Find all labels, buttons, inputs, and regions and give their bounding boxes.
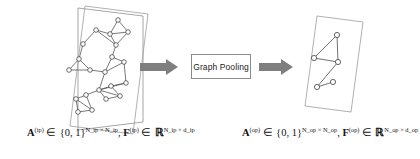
graph-node bbox=[330, 79, 335, 84]
output-sheet-group bbox=[305, 16, 363, 112]
graph-node bbox=[126, 30, 131, 35]
graph-node bbox=[110, 55, 115, 60]
input-adjacency-membership: ∈ bbox=[46, 127, 57, 138]
graph-node bbox=[67, 68, 72, 73]
output-adjacency-superscript: (op) bbox=[250, 126, 261, 133]
output-feature-superscript: (op) bbox=[349, 126, 360, 133]
output-graph-nodes bbox=[311, 32, 340, 89]
graph-node bbox=[124, 81, 129, 86]
graph-node bbox=[84, 93, 89, 98]
graph-node bbox=[114, 43, 119, 48]
graph-node bbox=[314, 84, 319, 89]
graph-node bbox=[90, 108, 95, 113]
graph-node bbox=[76, 110, 81, 115]
input-feature-set: ℝ bbox=[155, 127, 164, 138]
graph-node bbox=[122, 60, 127, 65]
output-feature-dims: N_op × d_op bbox=[384, 126, 418, 133]
input-adjacency-superscript: (ip) bbox=[35, 126, 44, 133]
output-feature-set: ℝ bbox=[375, 127, 384, 138]
graph-node bbox=[77, 57, 82, 62]
arrow-input-to-pooling bbox=[140, 59, 178, 75]
graph-node bbox=[88, 68, 93, 73]
output-graph-caption: A(op) ∈ {0, 1}N_op × N_op, F(op) ∈ ℝN_op… bbox=[242, 128, 418, 139]
input-adjacency-symbol: A bbox=[27, 127, 35, 138]
graph-node bbox=[103, 70, 108, 75]
input-adjacency-set: {0, 1} bbox=[60, 127, 86, 138]
output-adjacency-membership: ∈ bbox=[263, 127, 274, 138]
output-sheet bbox=[305, 16, 363, 112]
graph-pooling-figure: Graph Pooling A(ip) ∈ {0, 1}N_ip × N_ip,… bbox=[0, 0, 420, 159]
input-graph-caption: A(ip) ∈ {0, 1}N_ip × N_ip, F(ip) ∈ ℝN_ip… bbox=[27, 128, 195, 139]
graph-node bbox=[334, 32, 339, 37]
output-adjacency-dims: N_op × N_op bbox=[302, 126, 337, 133]
graph-node bbox=[109, 84, 114, 89]
output-adjacency-symbol: A bbox=[242, 127, 250, 138]
output-caption-separator: , bbox=[337, 127, 340, 138]
input-caption-separator: , bbox=[118, 127, 121, 138]
graph-node bbox=[94, 28, 99, 33]
graph-node bbox=[108, 32, 113, 37]
input-feature-dims: N_ip × d_ip bbox=[164, 126, 195, 133]
input-feature-membership: ∈ bbox=[141, 127, 152, 138]
output-adjacency-set: {0, 1} bbox=[276, 127, 302, 138]
graph-node bbox=[116, 18, 121, 23]
arrow-pooling-to-output bbox=[259, 59, 293, 75]
graph-node bbox=[81, 42, 86, 47]
graph-node bbox=[311, 55, 316, 60]
graph-node bbox=[74, 97, 79, 102]
output-feature-membership: ∈ bbox=[362, 127, 373, 138]
input-adjacency-dims: N_ip × N_ip bbox=[86, 126, 118, 133]
output-graph-edges bbox=[314, 35, 338, 87]
graph-node bbox=[104, 97, 109, 102]
input-feature-superscript: (ip) bbox=[130, 126, 139, 133]
graph-node bbox=[335, 59, 340, 64]
graph-pooling-label: Graph Pooling bbox=[193, 62, 249, 72]
graph-node bbox=[97, 88, 102, 93]
graph-pooling-box[interactable]: Graph Pooling bbox=[191, 54, 251, 79]
graph-node bbox=[118, 94, 123, 99]
